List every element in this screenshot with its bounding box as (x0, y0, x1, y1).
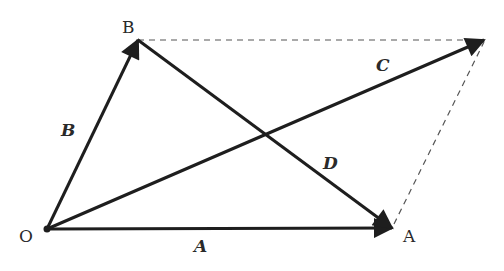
point-label-b: B (122, 17, 135, 37)
vector-label-c: C (376, 55, 390, 75)
origin-dot (44, 226, 51, 233)
vector-a-arrow (47, 228, 392, 229)
vector-label-b: B (60, 120, 75, 140)
vector-d-arrow (138, 40, 392, 228)
point-label-o: O (19, 226, 33, 246)
dashed-line-a-to-c (394, 42, 484, 224)
vector-label-a: A (192, 236, 207, 256)
vector-parallelogram-diagram: O B A B C D A (0, 0, 504, 271)
point-label-a: A (402, 226, 416, 246)
vector-label-d: D (322, 153, 338, 173)
